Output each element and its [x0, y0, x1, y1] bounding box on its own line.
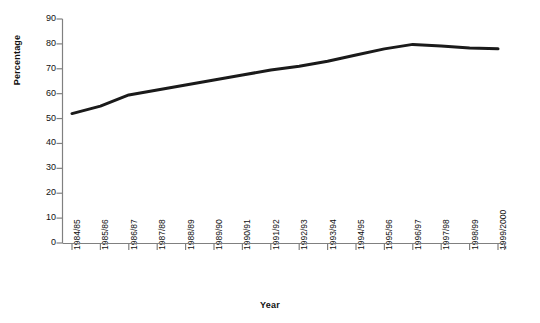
axis-lines — [63, 19, 506, 250]
plot-area — [0, 0, 540, 323]
x-axis-ticks — [72, 244, 498, 251]
data-series-line — [72, 44, 498, 113]
y-axis-ticks — [57, 19, 63, 243]
chart-container: Percentage Year 0102030405060708090 1984… — [0, 0, 540, 323]
